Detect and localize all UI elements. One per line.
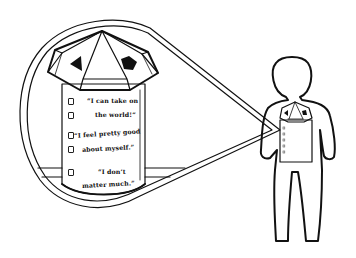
silo-statement-1-line-2: the world!” xyxy=(95,111,136,118)
illustration: “I can take on the world!” “I feel prett… xyxy=(0,0,356,258)
silo-small xyxy=(280,102,312,162)
roof-window-right xyxy=(121,56,137,70)
checkbox xyxy=(68,169,74,176)
silo-statement-1-line-1: “I can take on xyxy=(87,97,138,104)
checkbox xyxy=(68,146,74,153)
checkbox xyxy=(68,112,74,119)
roof-window-left xyxy=(70,56,82,71)
checkbox xyxy=(68,98,74,105)
person xyxy=(261,57,335,241)
illustration-drawing xyxy=(0,0,356,258)
silo-statement-3-line-1: “I don’t xyxy=(98,168,126,175)
